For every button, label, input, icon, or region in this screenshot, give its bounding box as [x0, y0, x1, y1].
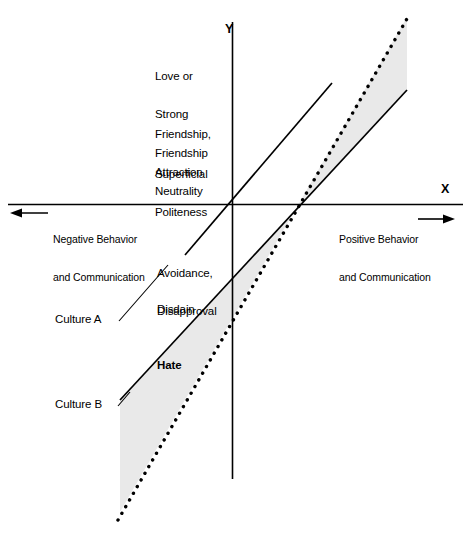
y-scale-superficial-line2: Politeness	[155, 206, 208, 219]
positive-behavior-caption-line1: Positive Behavior	[339, 233, 431, 246]
y-scale-superficial-line1: Superficial	[155, 168, 208, 181]
y-scale-avoidance-disapproval: Avoidance, Disapproval	[157, 241, 217, 344]
y-scale-disdain: Disdain	[157, 303, 195, 316]
negative-direction-arrow-icon	[10, 209, 48, 218]
y-scale-hate: Hate	[157, 359, 182, 372]
y-scale-friendship-line1: Friendship,	[155, 128, 211, 141]
negative-behavior-caption-line1: Negative Behavior	[53, 233, 145, 246]
negative-behavior-caption: Negative Behavior and Communication	[53, 208, 145, 309]
negative-behavior-caption-line2: and Communication	[53, 271, 145, 284]
culture-b-label: Culture B	[55, 398, 102, 411]
x-axis-name: X	[441, 182, 449, 196]
y-scale-avoidance-line1: Avoidance,	[157, 267, 217, 280]
culture-behavior-diagram: Y X Love or Strong Friendship Friendship…	[0, 0, 471, 549]
positive-behavior-caption-line2: and Communication	[339, 271, 431, 284]
culture-a-label: Culture A	[55, 313, 101, 326]
y-scale-neutrality: Neutrality	[155, 185, 203, 198]
y-scale-love-line1: Love or	[155, 70, 208, 83]
y-axis-name: Y	[225, 22, 233, 36]
positive-behavior-caption: Positive Behavior and Communication	[339, 208, 431, 309]
